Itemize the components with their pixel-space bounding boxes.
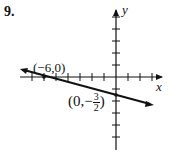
- fraction: 32: [93, 92, 100, 113]
- y-axis-label: y: [122, 2, 128, 18]
- label-prefix: (0,−: [68, 93, 93, 109]
- label-suffix: ): [100, 93, 105, 109]
- point-label-x-intercept: (−6,0): [33, 60, 65, 76]
- point-label-y-intercept: (0,−32): [68, 92, 105, 113]
- denominator: 2: [93, 103, 100, 113]
- x-axis-label: x: [156, 79, 162, 95]
- coordinate-plane: [0, 0, 172, 155]
